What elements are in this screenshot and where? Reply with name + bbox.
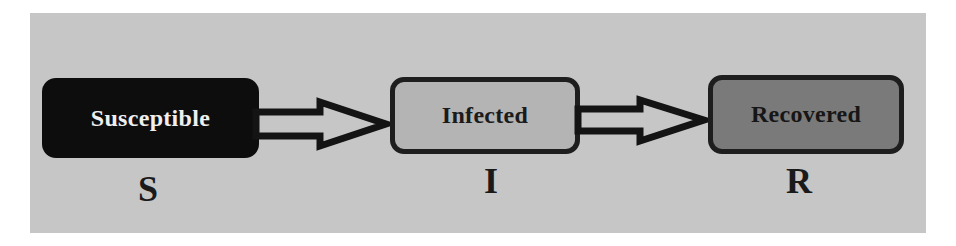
node-susceptible-label: Susceptible (91, 105, 210, 132)
node-recovered-label: Recovered (751, 101, 861, 128)
node-infected-label: Infected (442, 102, 528, 129)
arrow-s-to-i-icon (256, 100, 392, 150)
arrow-i-to-r-icon (578, 98, 710, 146)
symbol-i: I (461, 160, 521, 202)
symbol-s: S (118, 168, 178, 210)
node-recovered: Recovered (708, 75, 904, 154)
node-infected: Infected (390, 77, 580, 154)
node-susceptible: Susceptible (42, 78, 259, 158)
symbol-r: R (769, 160, 829, 202)
